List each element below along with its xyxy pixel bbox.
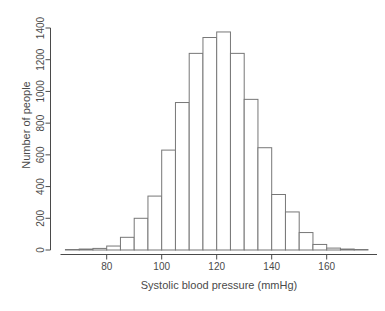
histogram-bar <box>93 248 107 250</box>
y-tick-label: 600 <box>35 146 46 163</box>
histogram-bar <box>120 237 134 250</box>
x-axis-label: Systolic blood pressure (mmHg) <box>141 279 298 291</box>
histogram-bar <box>203 38 217 250</box>
x-tick-label: 100 <box>153 261 170 272</box>
histogram-bar <box>175 103 189 250</box>
x-tick-label: 160 <box>318 261 335 272</box>
x-tick-label: 80 <box>101 261 113 272</box>
histogram-svg: 020040060080010001200140080100120140160S… <box>0 0 385 311</box>
histogram-bar <box>285 212 299 250</box>
histogram-bar <box>299 233 313 250</box>
histogram-bar <box>313 244 327 250</box>
bp-histogram-figure: 020040060080010001200140080100120140160S… <box>0 0 385 311</box>
x-tick-label: 120 <box>208 261 225 272</box>
y-tick-label: 800 <box>35 114 46 131</box>
y-axis-label: Number of people <box>20 81 32 168</box>
y-tick-label: 400 <box>35 178 46 195</box>
histogram-bar <box>134 218 148 250</box>
y-tick-label: 1400 <box>35 16 46 39</box>
histogram-bar <box>217 32 231 250</box>
x-tick-label: 140 <box>263 261 280 272</box>
histogram-bar <box>340 249 354 250</box>
histogram-bar <box>327 248 341 250</box>
y-tick-label: 200 <box>35 210 46 227</box>
histogram-bar <box>258 148 272 250</box>
histogram-bar <box>244 99 258 250</box>
histogram-bar <box>79 249 93 250</box>
histogram-bar <box>272 195 286 251</box>
y-tick-label: 1000 <box>35 80 46 103</box>
histogram-bar <box>162 150 176 250</box>
y-tick-label: 0 <box>35 247 46 253</box>
histogram-bar <box>230 53 244 250</box>
y-tick-label: 1200 <box>35 48 46 71</box>
histogram-bar <box>189 53 203 250</box>
histogram-bar <box>107 246 121 250</box>
histogram-bar <box>148 196 162 250</box>
